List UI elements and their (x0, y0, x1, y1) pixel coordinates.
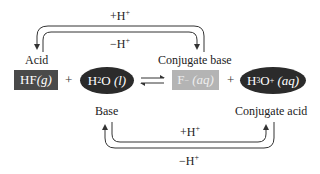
conjugate-base-label: Conjugate base (158, 53, 232, 68)
plus-sign: + (65, 72, 72, 88)
arrowhead-icon (34, 44, 40, 50)
arrowhead-icon (102, 124, 108, 130)
species-fluoride: F− (aq) (172, 70, 219, 90)
top-reverse-label: −H+ (110, 36, 130, 52)
bottom-forward-label: +H+ (180, 124, 200, 140)
plus-sign: + (227, 72, 234, 88)
arrowhead-icon (194, 44, 200, 50)
species-hf: HF(g) (14, 70, 58, 90)
top-forward-label: +H+ (110, 8, 130, 24)
bottom-reverse-label: −H+ (179, 153, 199, 169)
arrowhead-icon (263, 124, 269, 130)
base-label: Base (95, 104, 118, 119)
acid-label: Acid (25, 53, 48, 68)
species-hydronium: H3O+ (aq) (240, 67, 306, 94)
reverse-arrow-icon (140, 83, 145, 86)
species-h2o: H2O (l) (80, 67, 134, 94)
conjugate-acid-label: Conjugate acid (235, 104, 307, 119)
forward-arrow-icon (160, 75, 165, 78)
